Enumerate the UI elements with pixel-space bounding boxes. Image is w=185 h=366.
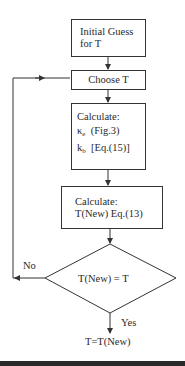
calculate-label: Calculate:: [77, 110, 145, 124]
decision-label: T(New) = T: [78, 273, 129, 285]
calculate-tnew-box: Calculate: T(New) Eq.(13): [61, 186, 163, 229]
choose-t-box: Choose T: [71, 70, 146, 90]
kappa-e-line: κe (Fig.3): [77, 124, 145, 141]
k-b-line: kb [Eq.(15)]: [77, 141, 145, 158]
yes-label: Yes: [121, 317, 136, 329]
calculate-tnew-line2: T(New) Eq.(13): [75, 208, 162, 220]
calculate-kappa-box: Calculate: κe (Fig.3) kb [Eq.(15)]: [71, 103, 146, 170]
initial-guess-line2: for T: [80, 38, 145, 50]
initial-guess-line1: Initial Guess: [80, 26, 145, 38]
bottom-rule: [0, 361, 185, 366]
calculate-tnew-line1: Calculate:: [75, 196, 162, 208]
result-label: T=T(New): [85, 336, 131, 348]
no-loop-line: [13, 78, 70, 278]
choose-t-label: Choose T: [88, 74, 128, 85]
initial-guess-box: Initial Guess for T: [71, 19, 146, 57]
no-label: No: [23, 260, 36, 272]
